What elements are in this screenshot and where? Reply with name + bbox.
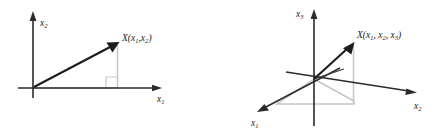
axis-x2-arrowhead	[405, 89, 417, 95]
right-angle-marker	[106, 77, 117, 88]
diagram-3d-canvas: x3 x2 x1 X(x1, x2, x3)	[217, 0, 433, 132]
point-label-x: X(x1,x2)	[121, 33, 152, 44]
diagram-3d-panel: x3 x2 x1 X(x1, x2, x3)	[217, 0, 433, 132]
diagram-2d-panel: x2 x1 X(x1,x2)	[0, 0, 217, 132]
axis-x2-arrowhead	[30, 11, 37, 21]
axis-label-x3: x3	[295, 9, 304, 20]
point-label-x: X(x1, x2, x3)	[356, 30, 401, 41]
axis-x1-arrowhead	[152, 85, 162, 91]
diagram-2d-canvas: x2 x1 X(x1,x2)	[0, 0, 217, 132]
axis-label-x1: x1	[156, 94, 165, 105]
projection-plane-outline	[277, 79, 354, 104]
vector-arrow-line	[314, 48, 348, 79]
axis-label-x1: x1	[250, 118, 259, 129]
vector-arrow-line	[34, 46, 112, 87]
axis-label-x2: x2	[413, 101, 422, 112]
vector-representation-figure: x2 x1 X(x1,x2)	[0, 0, 433, 132]
axis-x3-arrowhead	[311, 9, 318, 19]
axis-x1-arrowhead	[257, 104, 269, 112]
axis-label-x2: x2	[39, 18, 48, 29]
axis-x2-line	[286, 72, 409, 91]
